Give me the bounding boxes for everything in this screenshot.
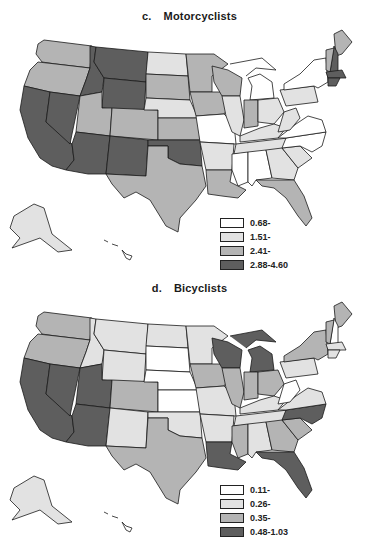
us-map-motorcyclists [0,0,379,272]
legend-bicyclists: 0.11- 0.26- 0.35- 0.48-1.03 [220,483,288,539]
state-ar [200,414,234,442]
state-ak [10,204,72,252]
legend-swatch [220,246,244,256]
legend-label: 2.41- [250,246,271,256]
panel-bicyclists: d.Bicyclists 0.11- 0.26- 0.35- 0.48-1.03 [0,272,379,547]
state-sd [146,346,190,372]
state-hi [104,512,132,532]
legend-swatch [220,232,244,242]
legend-label: 0.26- [250,499,271,509]
state-hi [104,240,132,260]
legend-item: 0.48-1.03 [220,525,288,538]
panel-motorcyclists: c.Motorcyclists 0.68- 1.51- 2.41- 2.88-4… [0,0,379,272]
state-sd [146,74,190,100]
legend-label: 0.48-1.03 [250,527,288,537]
state-nm [106,136,148,176]
legend-label: 2.88-4.60 [250,260,288,270]
state-wi [212,66,242,96]
state-ct [328,350,340,358]
legend-item: 1.51- [220,230,288,243]
us-map-bicyclists [0,272,379,547]
legend-motorcyclists: 0.68- 1.51- 2.41- 2.88-4.60 [220,216,288,272]
legend-item: 0.68- [220,216,288,229]
state-ny [284,330,328,362]
state-oh [258,370,284,396]
state-ct [328,78,340,86]
legend-item: 2.41- [220,244,288,257]
legend-label: 0.35- [250,513,271,523]
legend-item: 2.88-4.60 [220,258,288,271]
legend-swatch [220,260,244,270]
state-nd [146,52,188,76]
legend-item: 0.35- [220,511,288,524]
legend-item: 0.11- [220,483,288,496]
state-ks [158,118,200,140]
state-co [110,380,158,412]
state-wy [102,78,146,112]
state-wy [102,350,146,384]
state-nm [106,408,148,448]
legend-swatch [220,527,244,537]
state-ak [10,476,72,524]
legend-label: 0.11- [250,485,270,495]
legend-swatch [220,218,244,228]
state-oh [258,98,284,124]
legend-swatch [220,499,244,509]
state-in [244,100,258,128]
state-co [110,108,158,140]
state-ar [200,142,234,170]
state-ny [284,58,328,90]
legend-swatch [220,513,244,523]
legend-swatch [220,485,244,495]
state-ms [232,424,248,458]
state-nd [146,324,188,348]
legend-label: 1.51- [250,232,271,242]
state-ms [232,152,248,186]
legend-label: 0.68- [250,218,271,228]
state-wi [212,338,242,368]
legend-item: 0.26- [220,497,288,510]
state-in [244,372,258,400]
state-ks [158,390,200,412]
